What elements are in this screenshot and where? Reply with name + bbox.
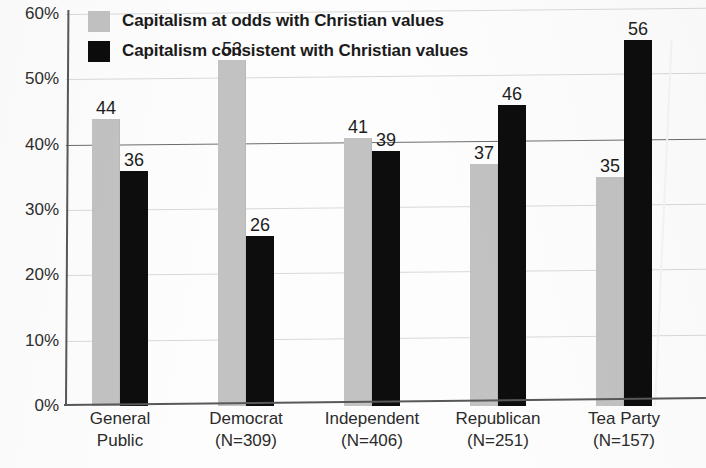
legend-label: Capitalism consistent with Christian val… <box>122 41 468 61</box>
legend-swatch-odds <box>88 11 110 32</box>
legend-swatch-consistent <box>88 41 110 62</box>
bar-group: 4139 <box>344 14 400 406</box>
y-tick-label-20: 20% <box>25 265 59 285</box>
x-axis-label-line1: Independent <box>325 409 420 428</box>
bar-consistent: 26 <box>246 236 274 406</box>
bar-value-label: 44 <box>96 99 116 117</box>
legend-label: Capitalism at odds with Christian values <box>122 11 444 31</box>
bar-group: 3556 <box>596 14 652 406</box>
bar-value-label: 46 <box>502 85 522 103</box>
bar-odds: 41 <box>344 138 372 406</box>
y-tick-label-30: 30% <box>25 200 59 220</box>
y-tick-label-50: 50% <box>25 69 59 89</box>
x-axis-label-line2: (N=157) <box>549 430 699 452</box>
bar-value-label: 35 <box>600 157 620 175</box>
bar-odds: 35 <box>596 177 624 406</box>
bar-group: 5326 <box>218 14 274 406</box>
plot-area: 0%10%20%30%40%50%60% 4436532641393746355… <box>66 14 706 406</box>
bar-consistent: 39 <box>372 151 400 406</box>
bar-value-label: 36 <box>124 151 144 169</box>
bar-consistent: 36 <box>120 171 148 406</box>
bar-value-label: 39 <box>376 131 396 149</box>
y-tick-label-60: 60% <box>25 4 59 24</box>
bar-odds: 44 <box>92 119 120 406</box>
bar-consistent: 56 <box>624 40 652 406</box>
bar-value-label: 26 <box>250 216 270 234</box>
bar-group: 4436 <box>92 14 148 406</box>
x-axis-label-line1: Tea Party <box>588 409 660 428</box>
cropped-title-text: values <box>430 0 479 3</box>
chart-legend: Capitalism at odds with Christian values… <box>88 6 468 66</box>
y-tick-label-10: 10% <box>25 331 59 351</box>
x-axis-label-line1: General <box>90 409 150 428</box>
x-axis-label-line1: Republican <box>455 409 540 428</box>
x-axis-label-line1: Democrat <box>209 409 283 428</box>
bar-odds: 53 <box>218 60 246 406</box>
x-axis-label: Tea Party(N=157) <box>549 408 699 452</box>
bar-odds: 37 <box>470 164 498 406</box>
bar-value-label: 37 <box>474 144 494 162</box>
bar-value-label: 41 <box>348 118 368 136</box>
legend-item: Capitalism consistent with Christian val… <box>88 36 468 66</box>
y-tick-label-40: 40% <box>25 135 59 155</box>
bar-consistent: 46 <box>498 105 526 406</box>
bar-value-label: 56 <box>628 20 648 38</box>
bar-chart-figure: values 0%10%20%30%40%50%60% 443653264139… <box>0 0 706 468</box>
bar-group: 3746 <box>470 14 526 406</box>
scan-crease <box>654 40 673 406</box>
legend-item: Capitalism at odds with Christian values <box>88 6 468 36</box>
